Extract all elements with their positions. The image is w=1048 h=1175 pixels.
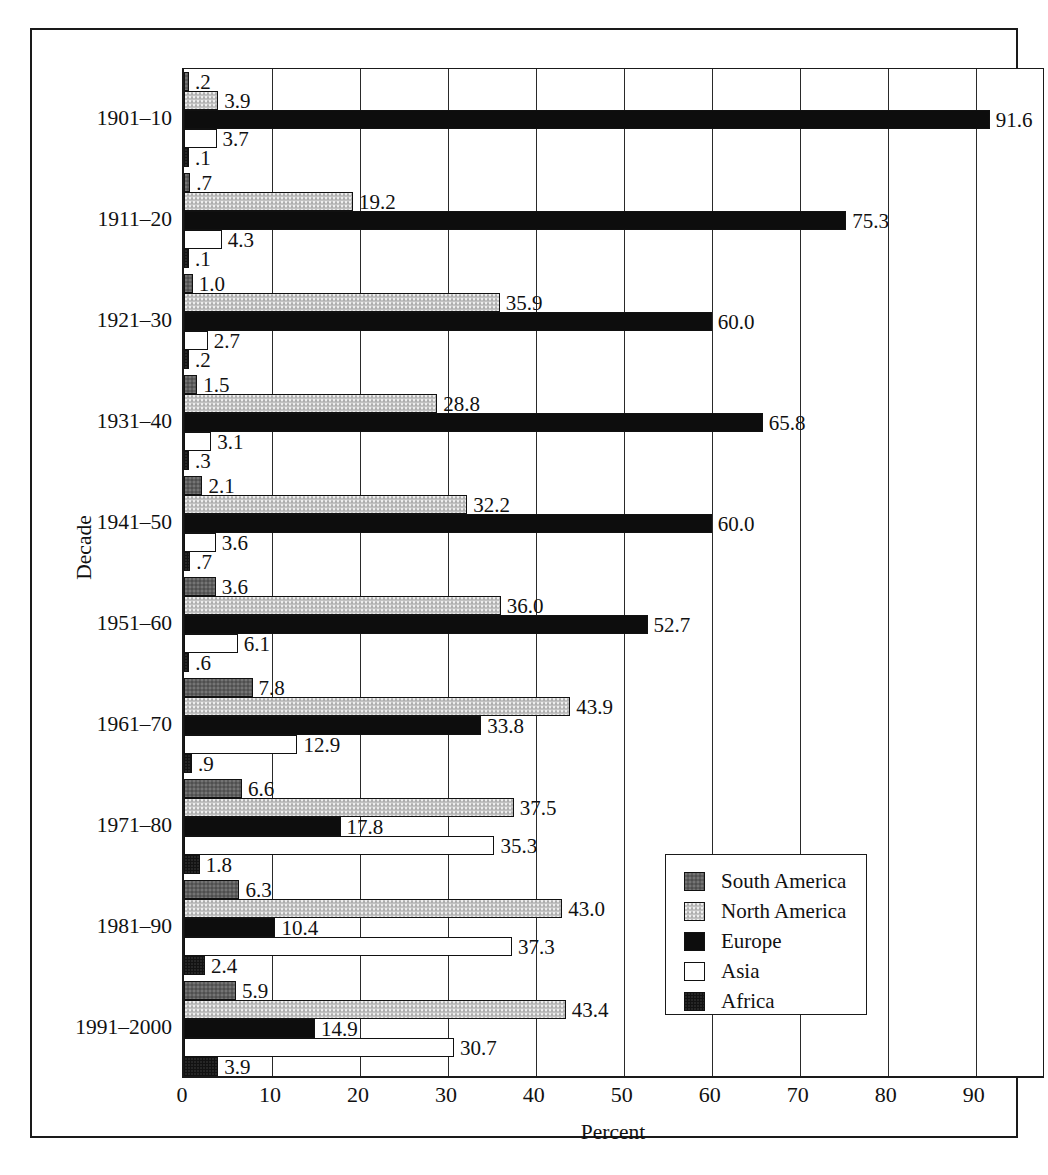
bar-europe[interactable]: [184, 312, 712, 331]
x-axis-tick-label: 0: [177, 1084, 188, 1106]
bar-value-label: 3.9: [224, 1056, 250, 1077]
bar-row: 60.0: [184, 514, 1043, 533]
bar-row: .6: [184, 653, 1043, 672]
bar-south-america[interactable]: [184, 779, 242, 798]
legend-item-europe[interactable]: Europe: [684, 927, 866, 955]
bar-group: 1.528.865.83.1.3: [184, 372, 1043, 473]
bar-south-america[interactable]: [184, 981, 236, 1000]
bar-africa[interactable]: [184, 552, 190, 571]
bar-value-label: 1.8: [206, 854, 232, 875]
y-axis-tick-label: 1901–10: [32, 108, 172, 130]
y-axis-tick-label: 1961–70: [32, 714, 172, 736]
legend-swatch-asia: [684, 962, 705, 981]
bar-north-america[interactable]: [184, 495, 467, 514]
bar-group: 6.637.517.835.31.8: [184, 776, 1043, 877]
bar-value-label: 4.3: [228, 229, 254, 250]
bar-group: .719.275.34.3.1: [184, 170, 1043, 271]
bar-south-america[interactable]: [184, 72, 189, 91]
bar-africa[interactable]: [184, 1057, 218, 1076]
bar-south-america[interactable]: [184, 577, 216, 596]
bar-europe[interactable]: [184, 918, 275, 937]
bar-value-label: 10.4: [281, 917, 318, 938]
x-axis-tick-label: 60: [699, 1084, 721, 1106]
bar-value-label: 3.1: [217, 431, 243, 452]
bar-africa[interactable]: [184, 451, 189, 470]
bar-value-label: 5.9: [242, 980, 268, 1001]
bar-row: 3.7: [184, 129, 1043, 148]
bar-europe[interactable]: [184, 817, 341, 836]
y-axis-tick-labels: 1901–101911–201921–301931–401941–501951–…: [32, 68, 172, 1078]
bar-row: .9: [184, 754, 1043, 773]
bar-africa[interactable]: [184, 855, 200, 874]
bar-north-america[interactable]: [184, 394, 437, 413]
bar-africa[interactable]: [184, 249, 189, 268]
legend-item-asia[interactable]: Asia: [684, 957, 866, 985]
bar-africa[interactable]: [184, 653, 189, 672]
bar-row: 10.4: [184, 918, 1043, 937]
bar-row: 17.8: [184, 817, 1043, 836]
bar-row: 14.9: [184, 1019, 1043, 1038]
legend-swatch-south-america: [684, 872, 705, 891]
bar-value-label: 52.7: [654, 614, 691, 635]
bar-value-label: 37.5: [520, 797, 557, 818]
bar-africa[interactable]: [184, 350, 189, 369]
bar-africa[interactable]: [184, 956, 205, 975]
bar-value-label: 6.6: [248, 778, 274, 799]
x-axis-tick-label: 80: [875, 1084, 897, 1106]
bar-north-america[interactable]: [184, 293, 500, 312]
bar-africa[interactable]: [184, 754, 192, 773]
bar-value-label: .2: [195, 349, 211, 370]
bar-row: 5.9: [184, 981, 1043, 1000]
legend-label: Asia: [721, 961, 760, 982]
bar-africa[interactable]: [184, 148, 189, 167]
bar-south-america[interactable]: [184, 476, 202, 495]
bar-row: 2.4: [184, 956, 1043, 975]
bar-value-label: .6: [195, 652, 211, 673]
bar-row: 3.9: [184, 1057, 1043, 1076]
x-axis-tick-label: 40: [523, 1084, 545, 1106]
bar-value-label: 19.2: [359, 191, 396, 212]
bar-europe[interactable]: [184, 413, 763, 432]
y-axis-tick-label: 1921–30: [32, 310, 172, 332]
bar-europe[interactable]: [184, 110, 990, 129]
bar-row: 30.7: [184, 1038, 1043, 1057]
bar-row: 3.6: [184, 577, 1043, 596]
legend-label: Europe: [721, 931, 782, 952]
legend-item-south-america[interactable]: South America: [684, 867, 866, 895]
bar-row: .7: [184, 173, 1043, 192]
bar-row: 6.6: [184, 779, 1043, 798]
bar-south-america[interactable]: [184, 678, 253, 697]
x-axis-title: Percent: [182, 1120, 1044, 1145]
bar-value-label: 1.5: [203, 374, 229, 395]
bar-europe[interactable]: [184, 514, 712, 533]
bar-row: 2.7: [184, 331, 1043, 350]
bar-group: 7.843.933.812.9.9: [184, 675, 1043, 776]
bar-row: 1.8: [184, 855, 1043, 874]
bar-value-label: 3.6: [222, 576, 248, 597]
bar-north-america[interactable]: [184, 192, 353, 211]
bar-row: 37.5: [184, 798, 1043, 817]
bar-north-america[interactable]: [184, 596, 501, 615]
bar-group: 3.636.052.76.1.6: [184, 574, 1043, 675]
bar-europe[interactable]: [184, 211, 846, 230]
bar-south-america[interactable]: [184, 880, 239, 899]
x-axis-tick-label: 50: [611, 1084, 633, 1106]
bar-north-america[interactable]: [184, 91, 218, 110]
legend-item-north-america[interactable]: North America: [684, 897, 866, 925]
bar-value-label: .7: [196, 551, 212, 572]
bar-value-label: 43.9: [576, 696, 613, 717]
bar-south-america[interactable]: [184, 274, 193, 293]
bar-south-america[interactable]: [184, 375, 197, 394]
bar-south-america[interactable]: [184, 173, 190, 192]
bar-north-america[interactable]: [184, 1000, 566, 1019]
legend-item-africa[interactable]: Africa: [684, 987, 866, 1015]
bar-value-label: 28.8: [443, 393, 480, 414]
bar-value-label: 30.7: [460, 1037, 497, 1058]
bar-north-america[interactable]: [184, 899, 562, 918]
bar-value-label: 91.6: [996, 109, 1033, 130]
bar-value-label: 2.4: [211, 955, 237, 976]
bar-row: 19.2: [184, 192, 1043, 211]
bar-value-label: 43.0: [568, 898, 605, 919]
bar-europe[interactable]: [184, 1019, 315, 1038]
bar-row: 7.8: [184, 678, 1043, 697]
